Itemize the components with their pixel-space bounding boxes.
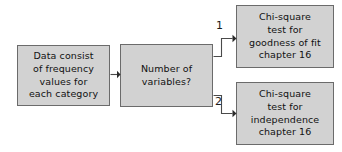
goodness-of-fit-box: Chi-square test for goodness of fit chap… <box>236 5 334 68</box>
edge-label-branch-2: 2 <box>215 96 222 107</box>
decision-box: Number of variables? <box>120 44 213 107</box>
edge-decision-to-goodness-of-fit <box>214 35 237 57</box>
data-description-box: Data consist of frequency values for eac… <box>17 45 110 106</box>
edge-label-branch-1: 1 <box>216 20 223 31</box>
independence-box: Chi-square test for independence chapter… <box>236 82 334 145</box>
edge-source-to-decision <box>111 71 121 78</box>
flowchart-canvas: Data consist of frequency values for eac… <box>0 0 342 152</box>
